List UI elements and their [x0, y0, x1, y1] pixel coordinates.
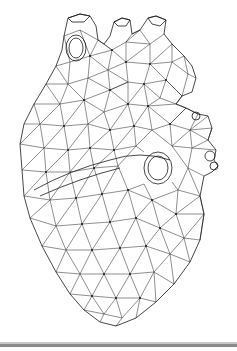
heart-wireframe-illustration	[0, 0, 237, 351]
bottom-divider-bar	[0, 344, 237, 347]
heart-outline	[20, 14, 218, 326]
mesh-lines	[20, 30, 216, 326]
mesh-vertices	[45, 49, 177, 299]
